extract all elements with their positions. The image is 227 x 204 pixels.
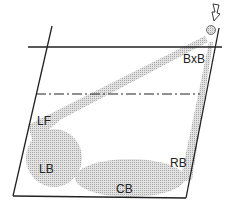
label-cb: CB <box>116 183 133 195</box>
transducer-icon <box>207 26 216 35</box>
label-lb: LB <box>39 163 54 175</box>
lb-region <box>26 129 82 187</box>
label-lf: LF <box>37 115 51 127</box>
down-arrow-icon <box>212 4 220 21</box>
label-bxb: BxB <box>183 53 205 65</box>
lf-beam-region <box>28 36 208 143</box>
bottom-line <box>13 196 186 198</box>
diagram-graphics <box>0 0 227 204</box>
label-rb: RB <box>170 157 187 169</box>
tank-diagram: BxB LF LB CB RB <box>0 0 227 204</box>
